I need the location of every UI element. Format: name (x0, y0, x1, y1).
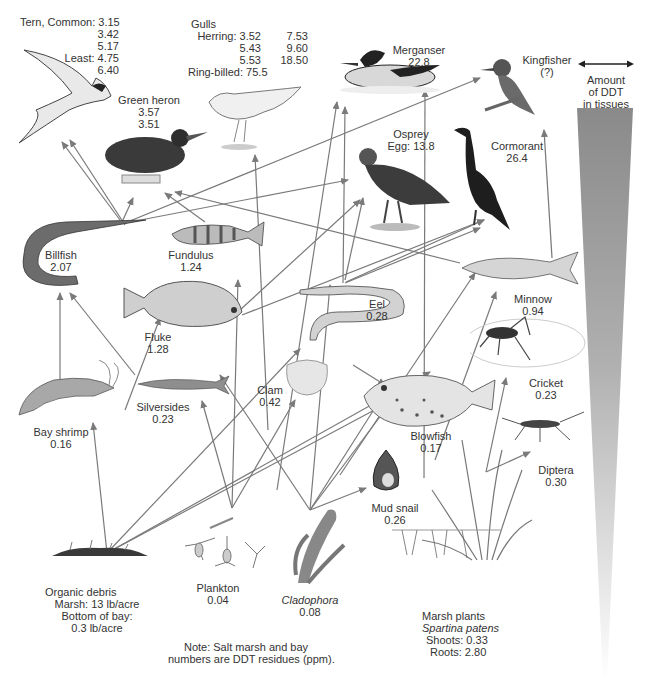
bay-shrimp-label: Bay shrimp 0.16 (30, 426, 92, 450)
organic-debris-illustration (50, 540, 150, 560)
silversides-illustration (136, 374, 231, 396)
cricket-label: Cricket 0.23 (524, 377, 568, 401)
fluke-label: Fluke 1.28 (140, 331, 176, 355)
cricket-illustration (470, 315, 590, 370)
mud-snail-label: Mud snail 0.26 (368, 502, 422, 526)
marsh-plants-label: Marsh plants Spartina patens Shoots: 0.3… (422, 610, 499, 658)
clam-illustration (282, 355, 332, 397)
cormorant-label: Cormorant 26.4 (484, 140, 550, 164)
bay-shrimp-illustration (14, 360, 124, 420)
gull-illustration (204, 82, 304, 154)
clam-label: Clam 0.42 (253, 384, 287, 408)
cladophora-illustration (288, 505, 348, 585)
fundulus-label: Fundulus 1.24 (166, 249, 216, 273)
gulls-herring-values-col2: 7.53 9.60 18.50 (270, 30, 308, 66)
green-heron-label: Green heron 3.57 3.51 (113, 94, 185, 130)
merganser-label: Merganser 22.8 (384, 44, 454, 68)
tern-label: Tern, Common: 3.15 3.42 5.17 Least: 4.75… (20, 16, 119, 76)
blowfish-label: Blowfish 0.17 (406, 430, 456, 454)
eel-label: Eel 0.28 (360, 298, 394, 322)
plankton-label: Plankton 0.04 (194, 582, 242, 606)
minnow-label: Minnow 0.94 (510, 293, 556, 317)
kingfisher-label: Kingfisher (?) (514, 54, 580, 78)
plankton-illustration (175, 510, 265, 568)
note-text: Note: Salt marsh and bay numbers are DDT… (168, 641, 324, 665)
fluke-illustration (122, 274, 244, 330)
gulls-herring-values: Herring: 3.52 5.43 5.53 Ring-billed: 75.… (188, 30, 261, 78)
minnow-illustration (460, 250, 580, 288)
organic-debris-title: Organic debris (45, 586, 117, 598)
green-heron-illustration (100, 120, 210, 190)
blowfish-illustration (362, 370, 497, 430)
silversides-label: Silversides 0.23 (132, 401, 194, 425)
diptera-label: Diptera 0.30 (534, 464, 578, 488)
fundulus-illustration (170, 218, 266, 250)
osprey-label: Osprey Egg: 13.8 (378, 128, 444, 152)
organic-debris-values: Marsh: 13 lb/acre Bottom of bay: 0.3 lb/… (52, 598, 142, 634)
osprey-illustration (350, 145, 455, 235)
billfish-label: Billfish 2.07 (38, 249, 84, 273)
gulls-title: Gulls (191, 18, 216, 30)
cladophora-label: Cladophora 0.08 (278, 594, 342, 618)
